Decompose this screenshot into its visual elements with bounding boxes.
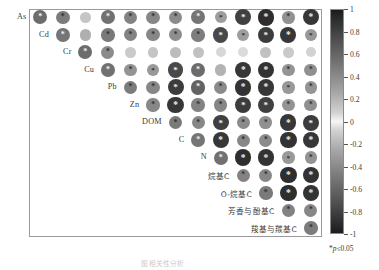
colorbar-tick — [344, 167, 348, 168]
correlation-dot: * — [259, 134, 272, 147]
correlation-dot: * — [214, 151, 228, 165]
correlation-dot: * — [282, 204, 295, 217]
correlation-dot: * — [146, 81, 159, 94]
correlation-dot: * — [235, 79, 251, 95]
colorbar-tick-label: -0.4 — [350, 162, 362, 171]
diagonal-label-10: O-烷基C — [0, 188, 252, 199]
correlation-dot — [216, 47, 226, 57]
correlation-dot — [260, 47, 271, 58]
correlation-dot: * — [258, 62, 274, 78]
correlation-dot — [80, 29, 92, 41]
diagonal-label-2: Cr — [0, 47, 72, 56]
colorbar-tick — [344, 9, 348, 10]
colorbar-tick-label: -1 — [350, 230, 356, 239]
colorbar-tick — [344, 54, 348, 55]
correlation-dot: * — [192, 116, 205, 129]
correlation-dot: * — [259, 186, 273, 200]
colorbar-tick-label: 0.4 — [350, 72, 360, 81]
colorbar-tick-label: 1 — [350, 5, 354, 14]
colorbar-tick-label: 0.8 — [350, 27, 360, 36]
correlation-dot: * — [237, 169, 250, 182]
correlation-dot — [170, 47, 181, 58]
correlation-dot: * — [258, 27, 274, 43]
correlation-dot — [283, 47, 294, 58]
correlation-dot: * — [305, 151, 318, 164]
correlation-dot: * — [124, 11, 137, 24]
colorbar-tick — [344, 32, 348, 33]
colorbar-tick-label: 0 — [350, 117, 354, 126]
correlation-dot: * — [258, 97, 274, 113]
correlation-dot: * — [101, 63, 115, 77]
colorbar-tick-label: -0.6 — [350, 185, 362, 194]
correlation-dot — [125, 47, 136, 58]
correlation-dot: * — [214, 81, 227, 94]
correlation-dot: * — [280, 114, 296, 130]
significance-note: *p≤0.05 — [329, 244, 353, 253]
diagonal-label-5: Zn — [0, 100, 139, 109]
colorbar-gradient — [330, 9, 344, 234]
correlation-dot: * — [303, 185, 319, 201]
correlation-dot: * — [213, 27, 229, 43]
correlation-dot: * — [237, 116, 250, 129]
correlation-dot: * — [191, 98, 204, 111]
correlation-dot — [148, 47, 159, 58]
correlation-dot — [80, 12, 91, 23]
correlation-dot: * — [303, 132, 319, 148]
correlation-dot: * — [258, 79, 274, 95]
colorbar-tick — [344, 189, 348, 190]
diagonal-label-6: DOM — [0, 117, 162, 126]
correlation-dot: * — [303, 115, 319, 131]
correlation-matrix-plot: ****************************************… — [0, 0, 325, 250]
correlation-dot: * — [282, 151, 294, 163]
diagonal-label-8: N — [0, 152, 207, 161]
correlation-dot: * — [280, 167, 297, 184]
correlation-dot: * — [191, 80, 205, 94]
correlation-dot: * — [259, 169, 272, 182]
correlation-dot: * — [214, 98, 227, 111]
diagonal-label-4: Pb — [0, 82, 117, 91]
correlation-dot: * — [280, 185, 297, 202]
colorbar-tick — [344, 212, 348, 213]
correlation-dot: * — [304, 221, 318, 235]
correlation-dot: * — [305, 29, 317, 41]
correlation-dot: * — [56, 28, 70, 42]
figure-caption: 图 相关性分析 — [0, 258, 325, 268]
colorbar-tick-label: -0.8 — [350, 207, 362, 216]
correlation-dot: * — [101, 28, 115, 42]
diagonal-label-1: Cd — [0, 30, 49, 39]
correlation-dot: * — [213, 115, 229, 131]
correlation-dot: * — [146, 11, 159, 24]
correlation-dot: * — [191, 28, 204, 41]
diagonal-label-12: 羧基与羰基C — [0, 223, 297, 234]
colorbar-tick-label: -0.2 — [350, 140, 362, 149]
correlation-dot: * — [168, 62, 184, 78]
colorbar-tick — [344, 144, 348, 145]
correlation-dot: * — [213, 132, 229, 148]
diagonal-label-7: C — [0, 135, 184, 144]
correlation-dot: * — [124, 64, 137, 77]
correlation-dot: * — [282, 99, 295, 112]
correlation-dot: * — [259, 116, 272, 129]
colorbar-tick-label: 0.6 — [350, 50, 360, 59]
correlation-dot: * — [191, 63, 205, 77]
colorbar-tick — [344, 122, 348, 123]
correlation-dot: * — [56, 11, 70, 25]
correlation-dot: * — [168, 79, 184, 95]
correlation-dot: * — [280, 132, 296, 148]
correlation-dot: * — [146, 28, 159, 41]
correlation-dot: * — [282, 81, 294, 93]
correlation-dot: * — [305, 81, 318, 94]
correlation-dot — [215, 64, 226, 75]
diagonal-label-3: Cu — [0, 65, 94, 74]
correlation-matrix-figure: ****************************************… — [0, 0, 379, 270]
colorbar-tick — [344, 99, 348, 100]
diagonal-label-9: 烷基C — [0, 170, 229, 181]
correlation-dot: * — [282, 11, 295, 24]
correlation-dot: * — [169, 11, 182, 24]
colorbar-tick-label: 0.2 — [350, 95, 360, 104]
correlation-dot: * — [282, 64, 295, 77]
correlation-dot — [193, 47, 204, 58]
correlation-dot: * — [191, 133, 205, 147]
correlation-dot: * — [237, 134, 250, 147]
correlation-dot: * — [167, 97, 183, 113]
